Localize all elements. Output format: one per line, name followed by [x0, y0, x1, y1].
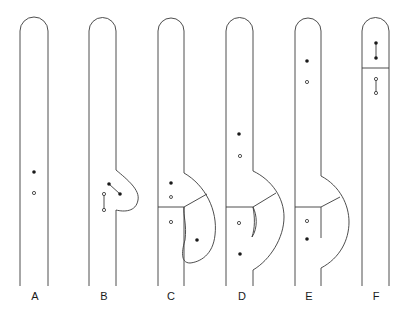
panel-label-b: B [94, 290, 114, 302]
filled-dot [305, 237, 309, 241]
open-dot [102, 208, 105, 211]
open-dot [237, 221, 240, 224]
open-dot [170, 196, 173, 199]
filled-dot [118, 192, 122, 196]
open-dot [102, 192, 105, 195]
panel-f-tube [362, 18, 389, 287]
filled-dot [32, 170, 36, 174]
panel-label-f: F [366, 290, 386, 302]
filled-dot [305, 59, 309, 63]
panel-b-tube [89, 18, 138, 286]
panel-label-c: C [161, 290, 181, 302]
filled-dot [237, 132, 241, 136]
panel-e-tube [295, 18, 349, 286]
diagram-canvas [0, 0, 413, 319]
open-dot [169, 220, 172, 223]
panel-label-d: D [232, 290, 252, 302]
open-dot [305, 80, 308, 83]
panel-d-tube [226, 18, 284, 287]
panel-c-tube [158, 18, 215, 286]
open-dot [238, 154, 241, 157]
filled-dot [107, 182, 111, 186]
panel-label-a: A [25, 290, 45, 302]
filled-dot [195, 238, 199, 242]
open-dot [374, 91, 377, 94]
open-dot [374, 77, 377, 80]
filled-dot [374, 41, 378, 45]
filled-dot [169, 181, 173, 185]
open-dot [305, 219, 308, 222]
filled-dot [374, 56, 378, 60]
open-dot [32, 191, 35, 194]
filled-dot [238, 252, 242, 256]
panel-label-e: E [299, 290, 319, 302]
panel-a-tube [20, 17, 48, 286]
